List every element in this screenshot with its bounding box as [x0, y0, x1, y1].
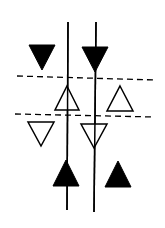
- diagram-background: [0, 0, 165, 228]
- diagram-canvas: [0, 0, 165, 228]
- line-left-overlay: [67, 22, 68, 210]
